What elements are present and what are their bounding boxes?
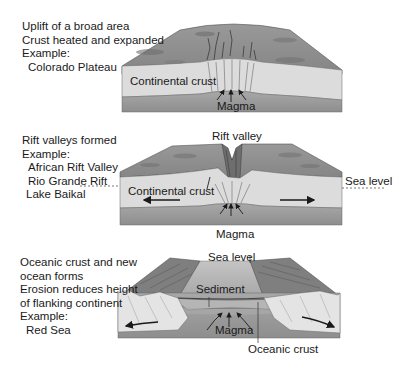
magma-label: Magma: [215, 324, 253, 338]
description-line: ocean forms: [20, 270, 138, 284]
example-item-lake-baikal: Lake Baikal: [26, 188, 85, 202]
magma-label: Magma: [217, 100, 255, 114]
uplift-description: Uplift of a broad area Crust heated and …: [22, 20, 164, 74]
description-line: Example:: [22, 47, 164, 61]
sediment-label: Sediment: [196, 283, 245, 297]
example-item: Rio Grande Rift: [22, 175, 118, 189]
description-line: Example:: [20, 310, 138, 324]
example-item: African Rift Valley: [22, 161, 118, 175]
magma-label: Magma: [216, 228, 254, 242]
description-line: Rift valleys formed: [22, 134, 118, 148]
description-line: Oceanic crust and new: [20, 256, 138, 270]
rift-description: Rift valleys formed Example: African Rif…: [22, 134, 118, 188]
description-line: Erosion reduces height: [20, 283, 138, 297]
description-line: Example:: [22, 148, 118, 162]
rift-valley-label: Rift valley: [212, 130, 262, 144]
continental-crust-label: Continental crust: [130, 75, 216, 89]
oceanic-crust-label: Oceanic crust: [248, 343, 318, 357]
example-item: Colorado Plateau: [22, 61, 164, 75]
continental-crust-label: Continental crust: [128, 185, 214, 199]
rift-block: [80, 144, 385, 225]
description-line: Uplift of a broad area: [22, 20, 164, 34]
sea-level-label: Sea level: [208, 251, 255, 265]
ocean-description: Oceanic crust and new ocean forms Erosio…: [20, 256, 138, 338]
description-line: of flanking continent: [20, 297, 138, 311]
example-item: Red Sea: [20, 324, 138, 338]
sea-level-label: Sea level: [345, 175, 392, 189]
description-line: Crust heated and expanded: [22, 34, 164, 48]
